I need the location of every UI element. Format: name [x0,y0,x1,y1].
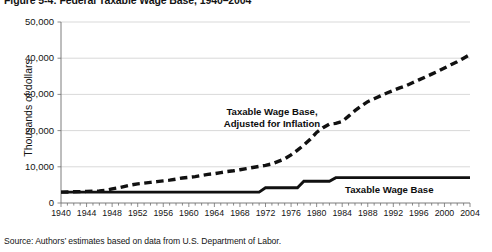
chart-plot-area: Thousands of dollars 010,00020,00030,000… [0,12,492,232]
series-label-taxable-wage-base: Taxable Wage Base [345,184,449,195]
series-label-inflation-adjusted: Taxable Wage Base, Adjusted for Inflatio… [196,106,348,129]
source-note: Source: Authors’ estimates based on data… [4,236,281,246]
figure-container: Figure 5-4: Federal Taxable Wage Base, 1… [0,0,492,252]
x-tick-label: 2004 [450,208,490,218]
figure-title: Figure 5-4: Federal Taxable Wage Base, 1… [4,0,424,7]
